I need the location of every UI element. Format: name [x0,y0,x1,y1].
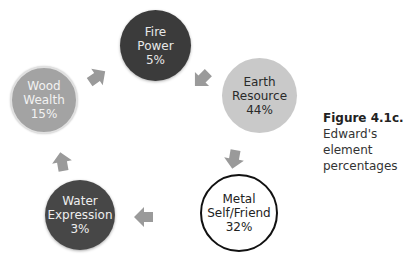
element-cycle-diagram: Fire Power 5% Earth Resource 44% Metal S… [0,0,411,271]
wood-node: Wood Wealth 15% [10,66,78,134]
water-role: Expression [47,208,112,222]
water-node: Water Expression 3% [45,180,115,250]
arrow-wood-to-fire-icon [86,66,108,88]
wood-role: Wealth [23,93,65,107]
earth-percent: 44% [246,103,273,117]
earth-role: Resource [232,89,287,103]
metal-node: Metal Self/Friend 32% [200,174,278,252]
arrow-earth-to-metal-icon [223,148,245,170]
metal-name: Metal [222,192,255,206]
earth-name: Earth [243,75,275,89]
metal-role: Self/Friend [207,206,271,220]
fire-role: Power [137,39,173,53]
fire-name: Fire [145,25,166,39]
water-percent: 3% [70,222,89,236]
wood-name: Wood [27,79,60,93]
caption-text: Edward's element percentages [323,127,398,173]
arrow-metal-to-water-icon [133,206,155,228]
arrow-fire-to-earth-icon [191,68,213,90]
figure-caption: Figure 4.1c. Edward's element percentage… [323,110,411,174]
metal-percent: 32% [226,220,253,234]
fire-percent: 5% [146,53,165,67]
earth-node: Earth Resource 44% [222,58,297,133]
fire-node: Fire Power 5% [120,10,191,81]
caption-label: Figure 4.1c. [323,111,404,125]
arrow-water-to-wood-icon [51,151,73,173]
water-name: Water [62,194,97,208]
wood-percent: 15% [31,107,58,121]
